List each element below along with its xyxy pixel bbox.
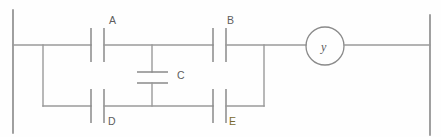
contact-e-label: E [229,116,236,127]
coil-y-label: y [321,40,326,55]
contact-b-label: B [227,15,234,26]
contact-d-label: D [108,116,116,127]
contact-a-label: A [109,15,116,26]
ladder-diagram-canvas [0,0,441,137]
contact-c-label: C [177,70,185,81]
ladder-logic-diagram: A B C D E y [0,0,441,137]
